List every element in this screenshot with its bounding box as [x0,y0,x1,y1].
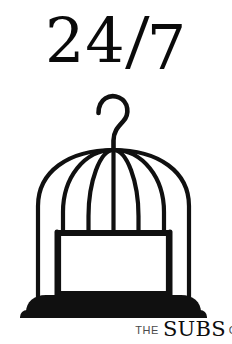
brand-the: THE [135,324,159,336]
brand-lockup: THESUBSCL [0,318,232,342]
cage-door-panel [61,236,167,292]
birdcage-illustration [0,86,232,318]
page-title: 24/7 [0,4,232,78]
birdcage-icon [16,86,216,318]
poster-canvas: 24/7 [0,0,232,344]
brand-name: SUBS [163,318,226,341]
title-part-24: 24 [45,4,126,77]
title-part-7: 7 [147,11,187,85]
cage-base-foot [20,310,207,318]
cage-hook [99,96,128,150]
brand-suffix: CL [229,324,232,336]
